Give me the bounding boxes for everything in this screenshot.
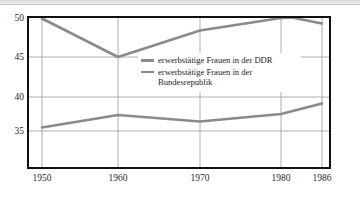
chart-legend: erwerbstätige Frauen in der DDR erwerbst… — [138, 53, 301, 92]
x-tick-1980: 1980 — [272, 173, 291, 183]
x-tick-1950: 1950 — [33, 173, 52, 183]
legend-label-ddr: erwerbstätige Frauen in der DDR — [158, 55, 273, 66]
y-tick-35: 35 — [15, 126, 25, 136]
legend-item-ddr: erwerbstätige Frauen in der DDR — [141, 55, 298, 66]
y-tick-45: 45 — [15, 52, 25, 62]
plot-background — [28, 17, 330, 168]
legend-label-bundesrepublik: erwerbstätige Frauen in der Bundesrepubl… — [158, 67, 252, 88]
x-axis-tick-labels: 1950 1960 1970 1980 1986 — [33, 173, 332, 183]
x-tick-1986: 1986 — [313, 173, 332, 183]
y-tick-50: 50 — [15, 13, 25, 23]
chart-figure: 50 45 40 35 1950 1960 1970 1980 1986 erw… — [0, 0, 360, 200]
y-tick-40: 40 — [15, 92, 25, 102]
x-tick-1960: 1960 — [109, 173, 128, 183]
line-chart: 50 45 40 35 1950 1960 1970 1980 1986 — [0, 0, 360, 200]
legend-swatch-icon-ddr — [141, 59, 154, 62]
x-tick-1970: 1970 — [191, 173, 210, 183]
legend-swatch-icon-bundesrepublik — [141, 71, 154, 74]
y-axis-tick-labels: 50 45 40 35 — [15, 13, 25, 136]
legend-item-bundesrepublik: erwerbstätige Frauen in der Bundesrepubl… — [141, 67, 298, 88]
